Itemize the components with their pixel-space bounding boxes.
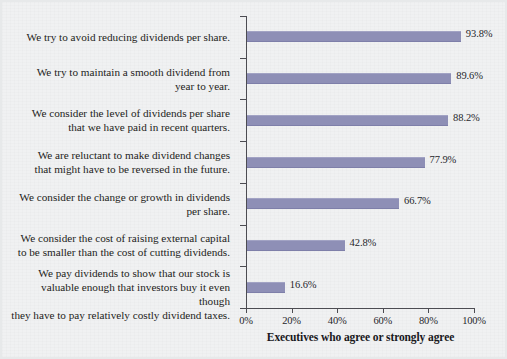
x-axis-tick [383, 308, 384, 313]
y-axis-tick [240, 16, 246, 17]
bar [247, 240, 345, 251]
category-label-line: year to year. [8, 79, 230, 93]
bar-value-label: 88.2% [453, 112, 480, 123]
category-label-line: that we have paid in recent quarters. [8, 120, 230, 134]
category-label-line: We consider the change or growth in divi… [8, 190, 230, 204]
x-axis-tick-label: 40% [314, 315, 360, 326]
bar-row: 16.6% [247, 282, 475, 293]
bar-value-label: 93.8% [466, 28, 493, 39]
bar-row: 93.8% [247, 31, 475, 42]
bar [247, 282, 285, 293]
bar-row: 66.7% [247, 198, 475, 209]
bar [247, 198, 399, 209]
category-label: We consider the cost of raising external… [8, 231, 230, 259]
category-label-line: to be smaller than the cost of cutting d… [8, 245, 230, 259]
bar [247, 115, 448, 126]
y-axis-tick [240, 183, 246, 184]
x-axis-tick-label: 0% [223, 315, 269, 326]
x-axis-tick-label: 20% [269, 315, 315, 326]
bar [247, 31, 461, 42]
x-axis-title: Executives who agree or strongly agree [246, 331, 475, 343]
chart-figure: We try to avoid reducing dividends per s… [0, 0, 507, 359]
x-axis-tick [337, 308, 338, 313]
category-label: We pay dividends to show that our stock … [8, 266, 230, 322]
plot-area: 0%20%40%60%80%100% 93.8%89.6%88.2%77.9%6… [246, 16, 474, 308]
x-axis-tick [292, 308, 293, 313]
y-axis-tick [240, 225, 246, 226]
bar-row: 42.8% [247, 240, 475, 251]
category-label-line: they have to pay relatively costly divid… [8, 308, 230, 322]
bar [247, 73, 451, 84]
category-label-line: We consider the cost of raising external… [8, 231, 230, 245]
x-axis-tick [246, 308, 247, 313]
bar-row: 89.6% [247, 73, 475, 84]
x-axis-tick-label: 80% [405, 315, 451, 326]
bar-value-label: 16.6% [290, 279, 317, 290]
y-axis-tick [240, 141, 246, 142]
y-axis-tick [240, 99, 246, 100]
category-label-line: per share. [8, 204, 230, 218]
bar-value-label: 42.8% [350, 237, 377, 248]
category-label: We are reluctant to make dividend change… [8, 148, 230, 176]
y-axis-tick [240, 266, 246, 267]
bar [247, 157, 425, 168]
category-label-line: valuable enough that investors buy it ev… [8, 280, 230, 308]
bar-row: 77.9% [247, 157, 475, 168]
category-label-line: We consider the level of dividends per s… [8, 106, 230, 120]
bar-row: 88.2% [247, 115, 475, 126]
x-axis-tick [474, 308, 475, 313]
category-label: We consider the change or growth in divi… [8, 190, 230, 218]
category-label: We consider the level of dividends per s… [8, 106, 230, 134]
x-axis-tick-label: 60% [360, 315, 406, 326]
bar-value-label: 89.6% [456, 70, 483, 81]
category-label-line: We pay dividends to show that our stock … [8, 266, 230, 280]
x-axis-tick [428, 308, 429, 313]
y-axis-tick [240, 58, 246, 59]
category-label: We try to avoid reducing dividends per s… [8, 30, 230, 44]
category-label: We try to maintain a smooth dividend fro… [8, 65, 230, 93]
bar-value-label: 66.7% [404, 195, 431, 206]
category-label-line: We are reluctant to make dividend change… [8, 148, 230, 162]
x-axis-tick-label: 100% [451, 315, 497, 326]
x-axis-line [246, 308, 475, 309]
category-label-line: that might have to be reversed in the fu… [8, 162, 230, 176]
category-label-line: We try to maintain a smooth dividend fro… [8, 65, 230, 79]
bar-value-label: 77.9% [430, 154, 457, 165]
category-label-column: We try to avoid reducing dividends per s… [10, 16, 240, 308]
category-label-line: We try to avoid reducing dividends per s… [8, 30, 230, 44]
